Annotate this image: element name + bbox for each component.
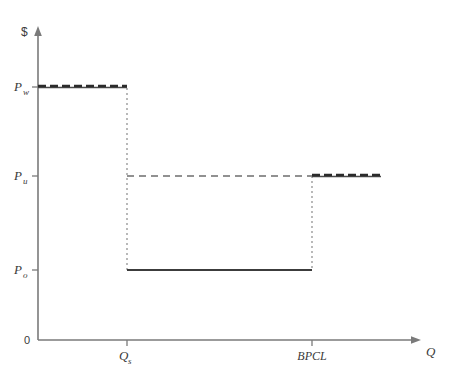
x-tick-labels-group: Q s BPCL bbox=[119, 348, 327, 366]
y-tick-label-pw: P w bbox=[13, 79, 29, 97]
series-price-schedule-solid bbox=[38, 86, 127, 88]
x-tick-label-qs: Q s bbox=[119, 348, 132, 366]
y-tick-label-pu: P u bbox=[13, 168, 28, 186]
x-tick-label-bpcl: BPCL bbox=[297, 349, 327, 363]
y-axis-arrowhead bbox=[34, 26, 42, 36]
x-tick-label-qs-sub: s bbox=[128, 356, 132, 366]
y-tick-labels-group: P w P u P o bbox=[13, 79, 29, 280]
axes-group bbox=[34, 26, 421, 344]
y-tick-label-po: P o bbox=[13, 262, 28, 280]
origin-label: 0 bbox=[24, 334, 30, 346]
y-tick-label-pw-sub: w bbox=[23, 87, 29, 97]
y-tick-label-pu-base: P bbox=[13, 168, 22, 183]
x-axis-unit-label: Q bbox=[426, 344, 436, 359]
y-tick-label-po-sub: o bbox=[23, 270, 28, 280]
y-tick-label-pw-base: P bbox=[13, 79, 22, 94]
y-ticks-group bbox=[32, 87, 38, 270]
y-tick-label-po-base: P bbox=[13, 262, 22, 277]
y-axis-unit-label: $ bbox=[21, 25, 28, 39]
y-tick-label-pu-sub: u bbox=[23, 176, 28, 186]
x-axis-arrowhead bbox=[411, 336, 421, 344]
series-unrestricted-price-tail bbox=[312, 175, 381, 177]
x-ticks-group bbox=[127, 340, 312, 346]
step-price-chart: $ Q 0 P w P u P o bbox=[0, 0, 458, 378]
chart-container: $ Q 0 P w P u P o bbox=[0, 0, 458, 378]
